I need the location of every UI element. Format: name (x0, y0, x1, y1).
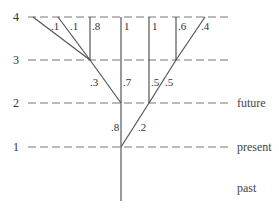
edge-3c-to-4a (33, 17, 90, 60)
prob-3c-to-4b: .1 (70, 20, 78, 32)
prob-2a-to-3d: .7 (123, 76, 132, 88)
prob-3c-to-4a: .1 (51, 20, 59, 32)
prob-3f-to-4f: .6 (178, 20, 187, 32)
prob-2a-to-3c: .3 (90, 76, 99, 88)
level-4-label: 4 (13, 10, 19, 24)
prob-3f-to-4g: .4 (201, 20, 210, 32)
level-2-label: 2 (13, 96, 19, 110)
prob-2b-to-3e: .5 (151, 76, 160, 88)
prob-3d-to-4d: 1 (124, 20, 130, 32)
branching-tree-diagram: 4 3 2 1 future present past .8 .2 .3 .7 … (0, 0, 279, 213)
level-1-label: 1 (13, 140, 19, 154)
prob-2b-to-3f: .5 (165, 76, 174, 88)
prob-3c-to-4c: .8 (92, 20, 101, 32)
prob-3e-to-4e: 1 (152, 20, 158, 32)
prob-1-to-2b: .2 (138, 121, 146, 133)
future-label: future (237, 96, 266, 110)
present-label: present (237, 140, 272, 154)
level-3-label: 3 (13, 53, 19, 67)
prob-1-to-2a: .8 (111, 121, 120, 133)
past-label: past (237, 181, 257, 195)
